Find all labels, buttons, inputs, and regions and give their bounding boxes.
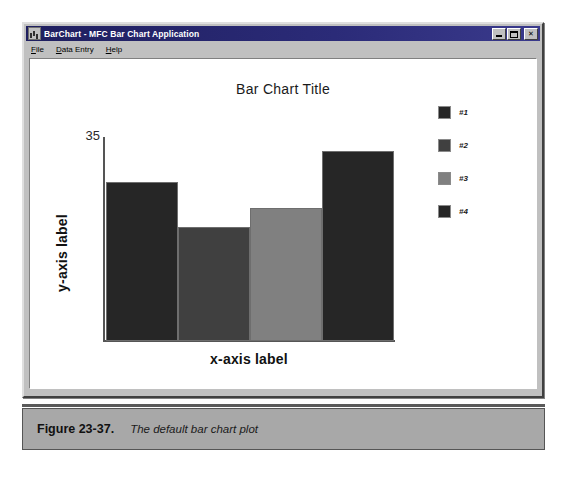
minimize-button[interactable] xyxy=(492,28,506,40)
figure-number: Figure 23-37. xyxy=(37,422,114,436)
legend-label-1: #1 xyxy=(459,108,468,117)
y-axis-tick-label-max: 35 xyxy=(66,128,100,143)
legend-swatch-2 xyxy=(438,139,451,152)
menu-item-file-label-rest: ile xyxy=(36,45,44,54)
plot-area: 35 y-axis label x-axis label #1#2#3#4 xyxy=(30,59,537,389)
bar-3 xyxy=(250,208,322,341)
figure-caption-text: The default bar chart plot xyxy=(130,423,258,435)
close-icon: ✕ xyxy=(528,30,534,37)
legend-item-2: #2 xyxy=(438,137,508,154)
legend-item-4: #4 xyxy=(438,203,508,220)
figure-caption-band: Figure 23-37. The default bar chart plot xyxy=(22,408,545,450)
menu-bar: File Data Entry Help xyxy=(26,43,540,56)
menu-item-data-entry[interactable]: Data Entry xyxy=(55,45,95,54)
minimize-icon xyxy=(496,35,502,37)
bar-group xyxy=(106,119,394,341)
legend-item-1: #1 xyxy=(438,104,508,121)
bar-2 xyxy=(178,227,250,341)
y-axis-label: y-axis label xyxy=(54,193,70,313)
chart-client-area[interactable]: Bar Chart Title 35 y-axis label x-axis l… xyxy=(29,58,537,389)
x-axis-label: x-axis label xyxy=(103,351,395,367)
y-axis-line xyxy=(103,137,105,341)
chart-legend: #1#2#3#4 xyxy=(438,104,508,236)
application-window: BarChart - MFC Bar Chart Application ✕ F… xyxy=(22,22,544,398)
maximize-button[interactable] xyxy=(507,28,521,40)
legend-label-3: #3 xyxy=(459,174,468,183)
bar-4 xyxy=(322,151,394,341)
legend-label-2: #2 xyxy=(459,141,468,150)
menu-item-data-entry-label-rest: ata Entry xyxy=(62,45,94,54)
legend-swatch-4 xyxy=(438,205,451,218)
window-title: BarChart - MFC Bar Chart Application xyxy=(44,29,491,39)
maximize-icon xyxy=(510,31,518,38)
menu-item-file[interactable]: File xyxy=(30,45,45,54)
menu-item-help[interactable]: Help xyxy=(105,45,123,54)
close-button[interactable]: ✕ xyxy=(524,28,538,40)
legend-item-3: #3 xyxy=(438,170,508,187)
title-bar: BarChart - MFC Bar Chart Application ✕ xyxy=(26,26,540,41)
menu-item-help-label-rest: elp xyxy=(111,45,122,54)
app-chart-icon xyxy=(28,27,41,40)
legend-swatch-1 xyxy=(438,106,451,119)
legend-label-4: #4 xyxy=(459,207,468,216)
legend-swatch-3 xyxy=(438,172,451,185)
figure-page: BarChart - MFC Bar Chart Application ✕ F… xyxy=(0,0,567,485)
bar-1 xyxy=(106,182,178,341)
